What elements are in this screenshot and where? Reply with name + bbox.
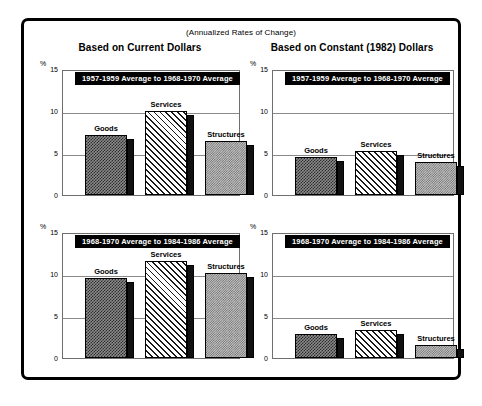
column-heading-constant-dollars: Based on Constant (1982) Dollars: [246, 42, 458, 53]
bar-group: GoodsServicesStructures: [63, 234, 239, 358]
bar-slot: Structures: [415, 234, 457, 358]
bar-slot: Structures: [415, 71, 457, 195]
bar-label-goods: Goods: [61, 124, 151, 133]
bar-group: GoodsServicesStructures: [273, 234, 453, 358]
y-axis-tick-label: 5: [36, 150, 58, 157]
bar-slot: Services: [355, 71, 397, 195]
panel-inner: %1957-1959 Average to 1968-1970 AverageG…: [36, 62, 244, 214]
bar-side-face: [457, 349, 464, 358]
bar-slot: Structures: [205, 71, 247, 195]
bar-label-services: Services: [121, 250, 211, 259]
chart-panel-constant-1957-1968: %1957-1959 Average to 1968-1970 AverageG…: [246, 62, 458, 214]
chart-panel-current-1968-1984: %1968-1970 Average to 1984-1986 AverageG…: [36, 225, 244, 377]
bar-structures: [205, 141, 247, 195]
bar-slot: Structures: [205, 234, 247, 358]
bar-label-structures: Structures: [391, 151, 481, 160]
plot-area: 1968-1970 Average to 1984-1986 AverageGo…: [272, 233, 454, 359]
bar-slot: Goods: [295, 234, 337, 358]
bar-services: [145, 111, 187, 195]
y-axis-tick-label: 10: [246, 108, 268, 115]
panel-inner: %1968-1970 Average to 1984-1986 AverageG…: [36, 225, 244, 377]
plot-area: 1957-1959 Average to 1968-1970 AverageGo…: [62, 70, 240, 196]
bar-goods: [295, 334, 337, 358]
bar-group: GoodsServicesStructures: [273, 71, 453, 195]
y-axis-tick-label: 15: [36, 66, 58, 73]
y-axis-tick-label: 5: [246, 150, 268, 157]
bar-goods: [85, 135, 127, 195]
bar-slot: Goods: [295, 71, 337, 195]
bar-structures: [205, 273, 247, 358]
y-axis-tick-label: 0: [246, 192, 268, 199]
bar-side-face: [337, 338, 344, 358]
chart-panel-constant-1968-1984: %1968-1970 Average to 1984-1986 AverageG…: [246, 225, 458, 377]
column-heading-current-dollars: Based on Current Dollars: [36, 42, 244, 53]
y-axis-tick-label: 0: [246, 355, 268, 362]
y-axis-tick-label: 0: [36, 355, 58, 362]
bar-structures: [415, 162, 457, 195]
bar-structures: [415, 345, 457, 358]
panel-inner: %1957-1959 Average to 1968-1970 AverageG…: [246, 62, 458, 214]
bar-slot: Services: [145, 234, 187, 358]
bar-services: [145, 261, 187, 358]
bar-slot: Goods: [85, 71, 127, 195]
bar-label-services: Services: [121, 100, 211, 109]
plot-area: 1957-1959 Average to 1968-1970 AverageGo…: [272, 70, 454, 196]
bar-side-face: [187, 265, 194, 358]
y-axis-tick-label: 15: [36, 229, 58, 236]
panel-inner: %1968-1970 Average to 1984-1986 AverageG…: [246, 225, 458, 377]
chart-panel-current-1957-1968: %1957-1959 Average to 1968-1970 AverageG…: [36, 62, 244, 214]
bar-side-face: [187, 115, 194, 195]
bar-side-face: [397, 155, 404, 195]
bar-side-face: [127, 282, 134, 358]
bar-side-face: [337, 161, 344, 195]
bar-group: GoodsServicesStructures: [63, 71, 239, 195]
y-axis-tick-label: 15: [246, 66, 268, 73]
y-axis-tick-label: 15: [246, 229, 268, 236]
plot-area: 1968-1970 Average to 1984-1986 AverageGo…: [62, 233, 240, 359]
y-axis-tick-label: 0: [36, 192, 58, 199]
y-axis-tick-label: 10: [36, 271, 58, 278]
bar-goods: [295, 157, 337, 195]
bar-label-structures: Structures: [391, 334, 481, 343]
y-axis-tick-label: 5: [246, 313, 268, 320]
bar-label-services: Services: [331, 140, 421, 149]
bar-label-services: Services: [331, 319, 421, 328]
bar-side-face: [127, 139, 134, 195]
bar-side-face: [457, 166, 464, 195]
figure-frame: (Annualized Rates of Change) Based on Cu…: [21, 18, 461, 380]
y-axis-tick-label: 5: [36, 313, 58, 320]
y-axis-tick-label: 10: [36, 108, 58, 115]
bar-goods: [85, 278, 127, 358]
bar-label-goods: Goods: [61, 267, 151, 276]
figure-subtitle: (Annualized Rates of Change): [24, 28, 458, 37]
y-axis-tick-label: 10: [246, 271, 268, 278]
